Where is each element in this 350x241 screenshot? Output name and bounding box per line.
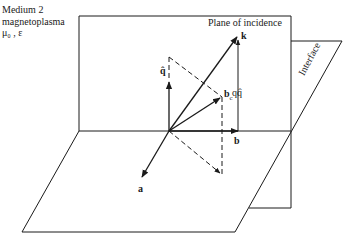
plane-of-incidence-label: Plane of incidence [208, 17, 282, 28]
vector-a-label: a [138, 183, 143, 194]
vectors [142, 37, 238, 177]
vector-b-c [169, 98, 220, 131]
vector-b-label: b [234, 135, 240, 146]
plane-of-incidence [79, 16, 291, 131]
vector-k [169, 37, 237, 131]
medium-label-line3: μ₀ , ε [2, 27, 65, 39]
medium-label: Medium 2 magnetoplasma μ₀ , ε [2, 4, 65, 39]
horizontal-plane [22, 131, 291, 232]
medium-label-line2: magnetoplasma [2, 16, 65, 28]
projection-dashes [169, 57, 222, 175]
medium-label-line1: Medium 2 [2, 4, 65, 16]
vector-q-hat-label: q̂ [160, 65, 166, 76]
vector-q-q-hat-label: qq̂ [232, 87, 242, 98]
vector-k-label: k [241, 30, 247, 41]
vector-a [142, 131, 169, 177]
interface-plane [235, 41, 342, 232]
